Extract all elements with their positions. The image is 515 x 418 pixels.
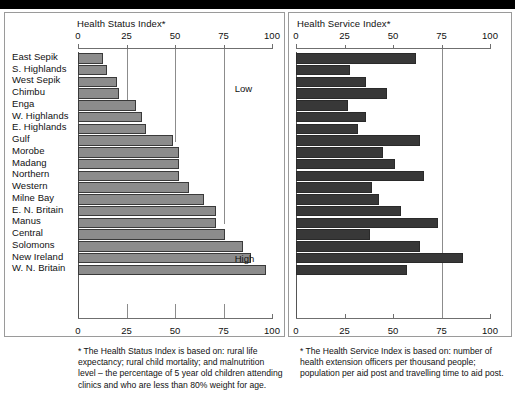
x-tick-label-bottom-health-status-0: 0 <box>75 325 80 336</box>
x-tick-label-top-health-service-100: 100 <box>482 30 498 41</box>
category-label-10: Northern <box>12 168 49 179</box>
bar-health-service-18 <box>296 265 407 276</box>
category-label-13: E. N. Britain <box>12 204 63 215</box>
category-label-14: Manus <box>12 215 41 226</box>
bar-health-status-4 <box>78 100 136 111</box>
gridline-health-service-75 <box>442 49 443 304</box>
bar-health-service-11 <box>296 182 372 193</box>
chart-title-health-status: Health Status Index* <box>77 18 166 29</box>
category-label-15: Central <box>12 227 43 238</box>
category-label-4: Enga <box>12 98 34 109</box>
bar-health-status-0 <box>78 53 103 64</box>
x-tick-label-top-health-status-0: 0 <box>75 30 80 41</box>
bar-health-service-15 <box>296 229 370 240</box>
category-label-1: S. Highlands <box>12 63 66 74</box>
bar-health-status-9 <box>78 159 179 170</box>
x-axis-bottom-tick-health-service-100 <box>490 314 491 318</box>
x-tick-label-bottom-health-service-75: 75 <box>436 325 447 336</box>
x-axis-top-health-service <box>296 48 491 49</box>
x-axis-top-endtick-health-service-0 <box>296 44 297 48</box>
bar-health-service-8 <box>296 147 383 158</box>
category-label-7: Gulf <box>12 133 30 144</box>
category-label-2: West Sepik <box>12 74 60 85</box>
category-label-0: East Sepik <box>12 51 58 62</box>
bar-health-service-16 <box>296 241 420 252</box>
x-axis-bottom-health-service <box>296 318 491 319</box>
x-axis-bottom-tick-health-status-100 <box>272 314 273 318</box>
bar-health-status-5 <box>78 112 142 123</box>
bar-health-status-8 <box>78 147 179 158</box>
x-tick-label-top-health-service-0: 0 <box>293 30 298 41</box>
bar-health-service-13 <box>296 206 401 217</box>
bar-health-service-12 <box>296 194 379 205</box>
category-label-12: Milne Bay <box>12 192 54 203</box>
category-label-16: Solomons <box>12 239 55 250</box>
gridline-health-status-50 <box>175 49 176 142</box>
x-axis-bottom-tick-health-service-25 <box>345 314 346 318</box>
x-axis-top-tick-health-service-75 <box>442 45 443 48</box>
x-tick-label-bottom-health-service-25: 25 <box>339 325 350 336</box>
x-axis-top-tick-health-status-50 <box>175 45 176 48</box>
bar-health-status-17 <box>78 253 251 264</box>
bar-health-status-15 <box>78 229 225 240</box>
category-label-11: Western <box>12 180 48 191</box>
bar-health-service-10 <box>296 171 424 182</box>
x-tick-label-top-health-service-75: 75 <box>436 30 447 41</box>
bar-health-service-7 <box>296 135 420 146</box>
bar-health-status-3 <box>78 88 119 99</box>
x-axis-top-endtick-health-status-0 <box>78 44 79 48</box>
x-axis-top-endtick-health-status-100 <box>272 44 273 48</box>
bar-health-service-5 <box>296 112 366 123</box>
top-black-bar <box>0 0 515 9</box>
x-axis-top-endtick-health-service-100 <box>490 44 491 48</box>
bar-health-service-17 <box>296 253 463 264</box>
x-tick-label-bottom-health-status-75: 75 <box>218 325 229 336</box>
x-axis-top-tick-health-status-75 <box>224 45 225 48</box>
bar-health-service-14 <box>296 218 438 229</box>
x-axis-bottom-tick-health-service-50 <box>393 314 394 318</box>
category-label-17: New Ireland <box>12 251 63 262</box>
bar-health-status-11 <box>78 182 189 193</box>
bar-health-status-7 <box>78 135 173 146</box>
gridline-stub-health-status-75 <box>224 304 225 318</box>
bar-health-status-13 <box>78 206 216 217</box>
bar-health-status-10 <box>78 171 179 182</box>
gridline-stub-health-status-50 <box>175 304 176 318</box>
annotation-low: Low <box>235 83 252 94</box>
footnote-health-status: * The Health Status Index is based on: r… <box>78 346 283 391</box>
bar-health-status-12 <box>78 194 204 205</box>
bar-health-status-16 <box>78 241 243 252</box>
category-label-5: W. Highlands <box>12 110 69 121</box>
x-axis-top-tick-health-service-25 <box>345 45 346 48</box>
category-label-9: Madang <box>12 157 47 168</box>
category-label-6: E. Highlands <box>12 121 66 132</box>
x-tick-label-bottom-health-status-25: 25 <box>121 325 132 336</box>
bar-health-service-0 <box>296 53 416 64</box>
x-tick-label-bottom-health-status-100: 100 <box>264 325 280 336</box>
x-axis-top-tick-health-service-50 <box>393 45 394 48</box>
x-tick-label-top-health-status-50: 50 <box>170 30 181 41</box>
x-tick-label-bottom-health-status-50: 50 <box>170 325 181 336</box>
gridline-stub-health-service-75 <box>442 304 443 318</box>
category-label-8: Morobe <box>12 145 45 156</box>
bar-health-status-2 <box>78 77 117 88</box>
bar-health-status-18 <box>78 265 266 276</box>
category-label-3: Chimbu <box>12 86 45 97</box>
x-tick-label-bottom-health-service-0: 0 <box>293 325 298 336</box>
bar-health-service-3 <box>296 88 387 99</box>
footnote-health-service: * The Health Service Index is based on: … <box>300 346 505 380</box>
figure-root: Health Status Index* Health Service Inde… <box>0 0 515 418</box>
x-tick-label-top-health-status-75: 75 <box>218 30 229 41</box>
x-tick-label-bottom-health-service-100: 100 <box>482 325 498 336</box>
x-tick-label-top-health-service-25: 25 <box>339 30 350 41</box>
category-label-18: W. N. Britain <box>12 262 65 273</box>
x-axis-bottom-health-status <box>78 318 273 319</box>
bar-health-status-6 <box>78 124 146 135</box>
x-tick-label-top-health-service-50: 50 <box>388 30 399 41</box>
x-tick-label-top-health-status-100: 100 <box>264 30 280 41</box>
bar-health-status-1 <box>78 65 107 76</box>
annotation-high: High <box>235 253 255 264</box>
chart-title-health-service: Health Service Index* <box>297 18 390 29</box>
bar-health-service-6 <box>296 124 358 135</box>
bar-health-service-1 <box>296 65 350 76</box>
